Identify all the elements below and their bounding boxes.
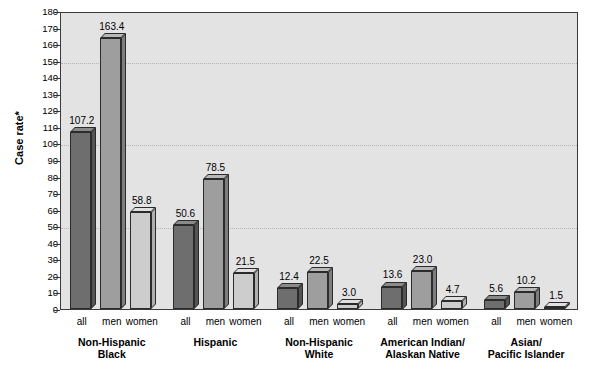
bar-value-label: 107.2 (62, 115, 102, 126)
x-axis-tick-label: women (223, 316, 267, 327)
bar-value-label: 22.5 (299, 255, 339, 266)
bar-value-label: 3.0 (329, 287, 369, 298)
bar-front-face (441, 301, 462, 309)
gridline (61, 63, 577, 64)
x-axis-tick-label: women (327, 316, 371, 327)
bar-men (100, 33, 121, 309)
y-axis-tick-label: 130 (18, 90, 58, 99)
y-axis-tick-label: 120 (18, 106, 58, 115)
x-axis-group-label: Asian/Pacific Islander (474, 336, 578, 360)
y-axis-tick-label: 140 (18, 73, 58, 82)
group-label-line: Asian/ (474, 336, 578, 348)
group-label-line: American Indian/ (371, 336, 475, 348)
bar-right-face (91, 127, 96, 309)
y-axis-tick-label: 60 (18, 206, 58, 215)
bar-women (130, 207, 151, 309)
y-axis-tick-label: 170 (18, 24, 58, 33)
y-axis-tick-label: 0 (18, 305, 58, 314)
group-label-line: White (267, 348, 371, 360)
bar-value-label: 10.2 (506, 275, 546, 286)
y-axis-tick-label: 80 (18, 173, 58, 182)
bar-right-face (254, 268, 259, 309)
bar-value-label: 23.0 (403, 254, 443, 265)
bar-all (484, 295, 505, 309)
group-label-line: Non-Hispanic (267, 336, 371, 348)
bar-women (544, 302, 565, 309)
y-axis-tick-label: 70 (18, 189, 58, 198)
bar-front-face (307, 272, 328, 309)
y-axis-tick-label: 50 (18, 222, 58, 231)
x-axis-group-label: Non-HispanicWhite (267, 336, 371, 360)
y-axis-tick-mark (54, 310, 60, 311)
bar-women (233, 268, 254, 309)
bar-women (441, 296, 462, 309)
bar-value-label: 50.6 (165, 208, 205, 219)
bar-right-face (298, 283, 303, 309)
group-label-line: Non-Hispanic (60, 336, 164, 348)
bar-men (514, 287, 535, 309)
group-label-line: Alaskan Native (371, 348, 475, 360)
y-axis-tick-label: 150 (18, 57, 58, 66)
bar-front-face (100, 38, 121, 309)
x-axis-group-label: Non-HispanicBlack (60, 336, 164, 360)
x-axis-tick-label: women (534, 316, 578, 327)
y-axis-tick-label: 180 (18, 7, 58, 16)
bar-front-face (411, 271, 432, 309)
bar-right-face (121, 33, 126, 309)
bar-front-face (130, 212, 151, 309)
bar-front-face (277, 288, 298, 309)
bar-women (337, 299, 358, 309)
group-label-line: Black (60, 348, 164, 360)
bar-men (307, 267, 328, 309)
bar-front-face (173, 225, 194, 309)
y-axis-tick-label: 90 (18, 156, 58, 165)
x-axis-tick-label: women (431, 316, 475, 327)
bar-value-label: 1.5 (536, 290, 576, 301)
bar-right-face (194, 220, 199, 309)
bar-value-label: 78.5 (195, 162, 235, 173)
bar-front-face (233, 273, 254, 309)
y-axis-tick-label: 30 (18, 255, 58, 264)
y-axis-tick-label: 100 (18, 139, 58, 148)
x-axis-group-label: American Indian/Alaskan Native (371, 336, 475, 360)
bar-right-face (151, 207, 156, 309)
bar-front-face (203, 179, 224, 309)
bar-all (277, 283, 298, 309)
y-axis-tick-label: 110 (18, 123, 58, 132)
x-axis-tick-label: women (120, 316, 164, 327)
x-axis-group-label: Hispanic (164, 336, 268, 348)
bar-men (411, 266, 432, 309)
bar-front-face (337, 304, 358, 309)
bar-value-label: 163.4 (92, 21, 132, 32)
y-axis-tick-label: 10 (18, 288, 58, 297)
bar-front-face (484, 300, 505, 309)
bar-value-label: 12.4 (269, 271, 309, 282)
bar-front-face (70, 132, 91, 309)
y-axis-tick-label: 20 (18, 272, 58, 281)
bar-front-face (381, 287, 402, 310)
bar-men (203, 174, 224, 309)
bar-value-label: 58.8 (122, 195, 162, 206)
y-axis-tick-label: 160 (18, 40, 58, 49)
group-label-line: Hispanic (164, 336, 268, 348)
bar-front-face (514, 292, 535, 309)
bar-value-label: 21.5 (225, 256, 265, 267)
bar-all (381, 282, 402, 310)
bar-value-label: 4.7 (433, 284, 473, 295)
y-axis-tick-label: 40 (18, 239, 58, 248)
bar-right-face (402, 282, 407, 310)
bar-chart: Case rate* 01020304050607080901001101201… (0, 0, 592, 370)
bar-all (173, 220, 194, 309)
gridline (61, 145, 577, 146)
bar-all (70, 127, 91, 309)
bar-value-label: 13.6 (373, 269, 413, 280)
group-label-line: Pacific Islander (474, 348, 578, 360)
bar-right-face (224, 174, 229, 309)
